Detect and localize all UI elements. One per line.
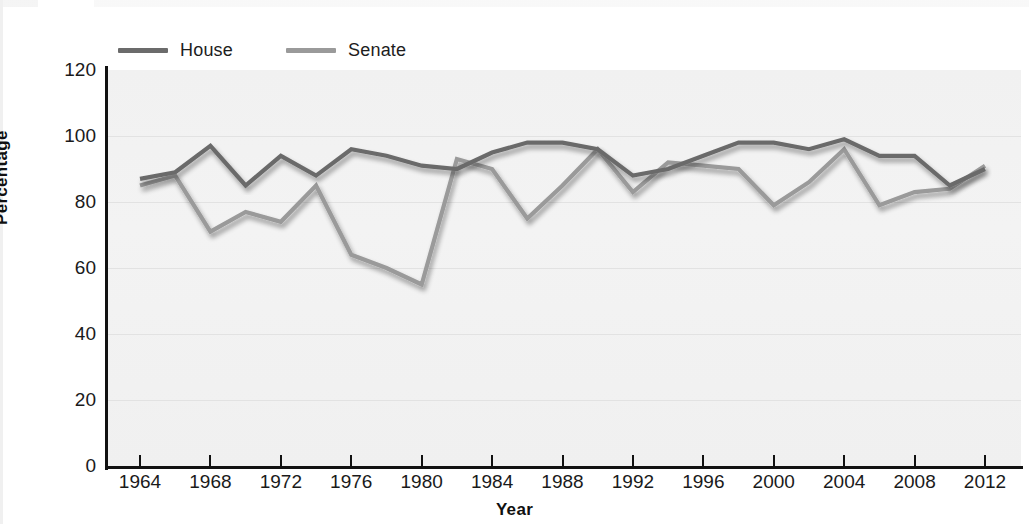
x-tick-mark (843, 455, 845, 467)
y-tick-label: 40 (36, 324, 96, 343)
legend-entry-senate: Senate (286, 40, 406, 61)
y-axis-line (105, 66, 108, 470)
x-tick-mark (421, 455, 423, 467)
scan-artifact-top (0, 0, 1029, 7)
x-tick-mark (209, 455, 211, 467)
x-tick-mark (280, 455, 282, 467)
gridline (108, 400, 1021, 401)
x-tick-mark (984, 455, 986, 467)
x-tick-label: 1972 (246, 472, 316, 491)
x-tick-label: 1996 (668, 472, 738, 491)
y-tick-label: 100 (36, 126, 96, 145)
x-tick-label: 1968 (175, 472, 245, 491)
y-tick-label: 80 (36, 192, 96, 211)
x-tick-label: 1992 (598, 472, 668, 491)
senate-line-swatch (286, 48, 336, 53)
x-tick-label: 2000 (739, 472, 809, 491)
x-tick-label: 2012 (950, 472, 1020, 491)
gridline (108, 202, 1021, 203)
x-tick-mark (562, 455, 564, 467)
x-tick-mark (632, 455, 634, 467)
x-tick-label: 2008 (880, 472, 950, 491)
plot-area (108, 70, 1021, 466)
x-tick-mark (350, 455, 352, 467)
chart-figure: House Senate 120100806040200 19641968197… (0, 0, 1029, 524)
scan-artifact-left (0, 0, 3, 524)
x-tick-mark (491, 455, 493, 467)
y-tick-label: 20 (36, 390, 96, 409)
legend-label-senate: Senate (348, 40, 406, 61)
gridline (108, 268, 1021, 269)
legend-entry-house: House (118, 40, 233, 61)
legend-label-house: House (180, 40, 233, 61)
y-tick-label: 0 (36, 456, 96, 475)
gridline (108, 136, 1021, 137)
x-tick-label: 1964 (105, 472, 175, 491)
x-tick-mark (914, 455, 916, 467)
x-axis-label: Year (0, 500, 1029, 520)
x-tick-mark (139, 455, 141, 467)
gridline (108, 334, 1021, 335)
y-tick-label: 120 (36, 60, 96, 79)
x-tick-label: 1988 (528, 472, 598, 491)
y-axis-label: Percentage (0, 130, 12, 225)
x-tick-mark (702, 455, 704, 467)
x-tick-mark (773, 455, 775, 467)
x-tick-label: 1976 (316, 472, 386, 491)
chart-legend: House Senate (118, 38, 406, 62)
x-tick-label: 1980 (387, 472, 457, 491)
y-tick-label: 60 (36, 258, 96, 277)
x-tick-label: 1984 (457, 472, 527, 491)
x-tick-label: 2004 (809, 472, 879, 491)
x-axis-line (105, 466, 1023, 469)
house-line-swatch (118, 48, 168, 53)
